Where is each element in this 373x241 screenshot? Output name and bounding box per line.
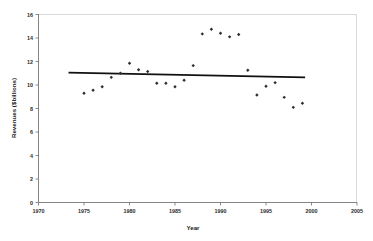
- data-point: [192, 64, 195, 67]
- y-tick-label-6: 6: [30, 129, 33, 135]
- data-point: [128, 62, 131, 65]
- revenues-by-year-chart: 16 14 12 10 8 6 4 2 0 1970 1975 1980 198…: [0, 0, 373, 241]
- chart-canvas: 16 14 12 10 8 6 4 2 0 1970 1975 1980 198…: [0, 0, 373, 241]
- y-tick-label-0: 0: [30, 200, 33, 206]
- data-point: [201, 32, 204, 35]
- x-tick-label-1975: 1975: [78, 208, 90, 214]
- x-tick-label-1995: 1995: [260, 208, 272, 214]
- data-point: [101, 85, 104, 88]
- y-tick-label-12: 12: [27, 59, 33, 65]
- y-axis-ticks: [36, 15, 39, 203]
- x-tick-label-2000: 2000: [306, 208, 318, 214]
- y-tick-label-2: 2: [30, 176, 33, 182]
- data-points-group: [82, 27, 304, 109]
- plot-area-border: [39, 15, 357, 203]
- data-point: [264, 84, 267, 87]
- data-point: [182, 79, 185, 82]
- data-point: [283, 96, 286, 99]
- data-point: [301, 102, 304, 105]
- y-axis-title: Revenues ($billions): [10, 78, 17, 138]
- data-point: [273, 81, 276, 84]
- y-axis-tick-labels: 16 14 12 10 8 6 4 2 0: [27, 12, 33, 206]
- data-point: [210, 27, 213, 30]
- data-point: [246, 69, 249, 72]
- y-tick-label-14: 14: [27, 35, 33, 41]
- y-tick-label-4: 4: [30, 153, 33, 159]
- x-tick-label-1970: 1970: [33, 208, 45, 214]
- x-tick-label-2005: 2005: [351, 208, 363, 214]
- x-axis-ticks: [39, 203, 358, 206]
- x-tick-label-1985: 1985: [169, 208, 181, 214]
- data-point: [228, 35, 231, 38]
- y-tick-label-10: 10: [27, 82, 33, 88]
- data-point: [164, 82, 167, 85]
- data-point: [292, 106, 295, 109]
- x-axis-title: Year: [186, 224, 200, 231]
- data-point: [146, 70, 149, 73]
- data-point: [237, 33, 240, 36]
- data-point: [137, 68, 140, 71]
- data-point: [173, 85, 176, 88]
- x-tick-label-1980: 1980: [124, 208, 136, 214]
- data-point: [155, 82, 158, 85]
- data-point: [255, 93, 258, 96]
- x-axis-tick-labels: 1970 1975 1980 1985 1990 1995 2000 2005: [33, 208, 364, 214]
- y-tick-label-16: 16: [27, 12, 33, 18]
- data-point: [219, 32, 222, 35]
- data-point: [82, 92, 85, 95]
- data-point: [91, 89, 94, 92]
- x-tick-label-1990: 1990: [215, 208, 227, 214]
- y-tick-label-8: 8: [30, 106, 33, 112]
- trend-line: [69, 73, 306, 78]
- data-point: [110, 76, 113, 79]
